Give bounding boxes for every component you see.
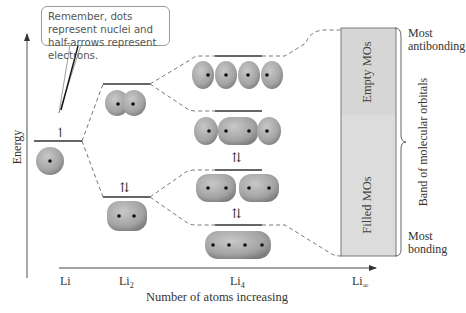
most-bonding-label: Most bonding: [408, 230, 447, 256]
li-to-li2-lower-connector: [82, 141, 103, 197]
filled-mos-label: Filled MOs: [360, 155, 376, 255]
li4-electron-pair-1: ⇅: [231, 206, 242, 222]
energy-axis-label: Energy: [10, 122, 24, 172]
li-to-li2-upper-connector: [82, 84, 103, 141]
band-of-molecular-orbitals-label: Band of molecular orbitals: [416, 67, 430, 217]
nucleus-dot: [48, 159, 52, 163]
callout-box: Remember, dots represent nuclei and half…: [41, 6, 170, 46]
band-brace: [395, 28, 406, 256]
li4-to-band-top-connector: [262, 30, 341, 56]
li2-antibonding-orbital: [105, 90, 146, 116]
empty-mos-label: Empty MOs: [360, 22, 376, 122]
li4-electron-pair-2: ⇅: [231, 150, 242, 166]
li4-orbital-2: [196, 174, 279, 202]
li4-orbital-1: [205, 231, 271, 259]
x-axis-label: Number of atoms increasing: [146, 290, 288, 305]
li4-orbital-3: [194, 117, 281, 145]
li-electron-arrow: ↿: [55, 125, 66, 141]
column-label-li: Li: [60, 274, 71, 289]
li4-orbital-4: [192, 61, 283, 89]
li2-electron-pair: ⇅: [119, 180, 130, 196]
column-label-li4: Li4: [230, 274, 245, 290]
column-label-li2: Li2: [119, 274, 134, 290]
li4-to-band-bottom-connector: [262, 225, 341, 256]
column-label-li-infinity: Li∞: [352, 274, 368, 290]
most-antibonding-label: Most antibonding: [408, 27, 465, 53]
li2-bonding-orbital: [107, 201, 147, 231]
